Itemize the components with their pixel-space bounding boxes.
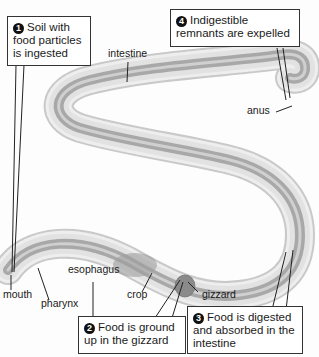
callout-text: Food is digested and absorbed in the int… [193, 311, 295, 349]
callout-ingestion: 1Soil with food particles is ingested [7, 16, 91, 66]
step-number-3: 3 [193, 313, 204, 324]
label-anus: anus [247, 104, 270, 116]
step-number-4: 4 [176, 16, 187, 27]
callout-digestion: 3Food is digested and absorbed in the in… [187, 306, 303, 354]
step-number-2: 2 [84, 323, 95, 334]
label-gizzard: gizzard [202, 288, 236, 300]
label-pharynx: pharynx [41, 297, 78, 309]
callout-text: Indigestible remnants are expelled [176, 14, 290, 39]
step-number-1: 1 [13, 23, 24, 34]
callout-expulsion: 4Indigestible remnants are expelled [170, 9, 300, 47]
callout-text: Food is ground up in the gizzard [84, 321, 175, 346]
label-intestine: intestine [108, 47, 147, 59]
crop [113, 253, 157, 277]
label-mouth: mouth [3, 288, 32, 300]
label-esophagus: esophagus [68, 263, 119, 275]
label-crop: crop [127, 288, 147, 300]
callout-grinding: 2Food is ground up in the gizzard [78, 316, 186, 354]
